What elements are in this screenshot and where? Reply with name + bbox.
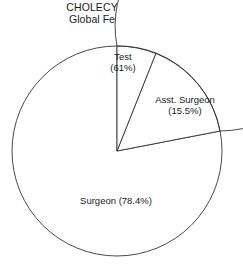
pie-label-surgeon-name: Surgeon: [80, 195, 116, 206]
pie-label-asst-surgeon-name: Asst. Surgeon: [146, 95, 224, 106]
pie-label-asst-surgeon: Asst. Surgeon (15.5%): [146, 95, 224, 116]
pie-label-surgeon-percent: (78.4%): [116, 195, 152, 206]
pie-chart-figure: CHOLECYSTECTOMY Global Fee, $1,000.00 Te…: [0, 0, 243, 273]
pie-graphic: [0, 0, 243, 273]
pie-label-surgeon: Surgeon (78.4%): [56, 196, 176, 207]
pie-label-asst-surgeon-percent: (15.5%): [146, 106, 224, 117]
pie-label-test: Test (61%): [100, 52, 146, 73]
pie-label-test-name: Test: [100, 52, 146, 63]
pie-label-test-percent: (61%): [100, 63, 146, 74]
